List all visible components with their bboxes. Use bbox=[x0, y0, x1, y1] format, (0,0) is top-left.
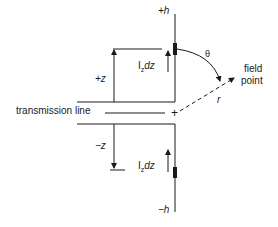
lower-conductor bbox=[77, 124, 175, 212]
field-point-label-line2: point bbox=[241, 76, 263, 86]
dipole-antenna-diagram: +h −h +z −z Izdz Izdz θ field point r tr… bbox=[0, 0, 278, 227]
current-differential: dz bbox=[144, 160, 155, 171]
current-element-top bbox=[173, 43, 177, 55]
current-label-bottom: Izdz bbox=[138, 161, 155, 173]
field-point-label-line1: field bbox=[244, 64, 262, 74]
current-element-bottom bbox=[173, 167, 177, 178]
theta-label: θ bbox=[205, 50, 210, 59]
origin-marker: + bbox=[171, 107, 178, 119]
top-end-label: +h bbox=[158, 6, 169, 16]
minus-z-label: −z bbox=[95, 141, 106, 151]
transmission-line-label: transmission line bbox=[16, 106, 90, 116]
current-label-top: Izdz bbox=[138, 61, 155, 73]
distance-r-label: r bbox=[217, 95, 220, 105]
theta-arc bbox=[177, 49, 220, 81]
bottom-end-label: −h bbox=[158, 205, 169, 215]
distance-r-line bbox=[180, 78, 234, 111]
upper-conductor bbox=[77, 14, 175, 102]
plus-z-label: +z bbox=[95, 74, 106, 84]
current-differential: dz bbox=[144, 60, 155, 71]
